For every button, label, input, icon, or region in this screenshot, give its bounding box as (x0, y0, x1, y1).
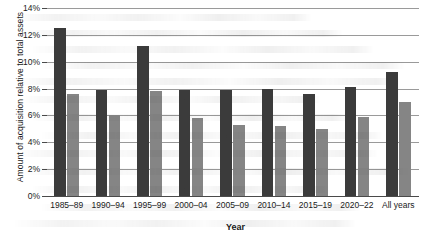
x-axis-tick-label: 1990–94 (92, 200, 125, 210)
bar (220, 90, 232, 196)
bar (179, 90, 191, 196)
bar (345, 87, 357, 196)
x-axis-tick-label: 2010–14 (257, 200, 290, 210)
bar (150, 91, 162, 196)
bar-group (345, 8, 370, 196)
y-axis-tick-label: 10% (23, 57, 40, 67)
bar-group (303, 8, 328, 196)
bar (358, 117, 370, 196)
x-axis-baseline (46, 196, 419, 197)
x-axis-tick-label: 2005–09 (216, 200, 249, 210)
bar-group (179, 8, 204, 196)
bar (109, 115, 121, 196)
bar (233, 125, 245, 196)
y-axis-tick-label: 0% (28, 191, 40, 201)
y-axis-tick-label: 12% (23, 30, 40, 40)
bar (67, 94, 79, 196)
y-axis-tick-label: 4% (28, 137, 40, 147)
bar-group (220, 8, 245, 196)
bar-group (386, 8, 411, 196)
bar (316, 129, 328, 196)
bar (262, 89, 274, 196)
plot-area: 0%2%4%6%8%10%12%14% 1985–891990–941995–9… (46, 8, 419, 196)
x-axis-tick-label: 2020–22 (340, 200, 373, 210)
x-axis-tick-label: 1995–99 (133, 200, 166, 210)
bar (192, 118, 204, 196)
bar-chart-figure: Amount of acquisition relative to total … (0, 0, 425, 238)
bar (386, 72, 398, 196)
bar-group (96, 8, 121, 196)
y-axis-tick-label: 14% (23, 3, 40, 13)
x-axis-title: Year (46, 222, 425, 232)
x-axis-tick-label: 2000–04 (175, 200, 208, 210)
y-axis-tick-mark (42, 196, 47, 197)
bar (96, 90, 108, 196)
x-axis-tick-label: 2015–19 (299, 200, 332, 210)
bar-group (137, 8, 162, 196)
y-axis-title: Amount of acquisition relative to total … (15, 0, 25, 197)
bar (399, 102, 411, 196)
y-axis-tick-label: 6% (28, 110, 40, 120)
y-axis-tick-label: 8% (28, 84, 40, 94)
bar (303, 94, 315, 196)
bar (275, 126, 287, 196)
x-axis-tick-label: 1985–89 (50, 200, 83, 210)
bars-layer (46, 8, 419, 196)
bar-group (262, 8, 287, 196)
x-axis-tick-label: All years (382, 200, 415, 210)
bar (137, 46, 149, 196)
bar-group (54, 8, 79, 196)
bar (54, 28, 66, 196)
y-axis-tick-label: 2% (28, 164, 40, 174)
